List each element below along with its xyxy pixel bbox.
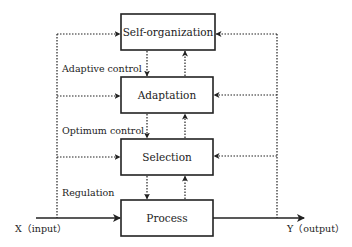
output-label: Y（output） — [286, 223, 345, 234]
box-process: Process — [121, 200, 213, 236]
box-label-adaptation: Adaptation — [137, 89, 197, 101]
box-self-organization: Self-organization — [121, 14, 215, 50]
box-selection: Selection — [121, 139, 213, 175]
box-label-self-organization: Self-organization — [123, 26, 214, 38]
inter-level-arrows — [147, 51, 185, 199]
box-label-selection: Selection — [142, 151, 192, 163]
box-adaptation: Adaptation — [121, 77, 213, 113]
label-adaptive-control: Adaptive control — [61, 63, 142, 74]
control-hierarchy-diagram: Self-organization Adaptation Selection P… — [0, 0, 352, 247]
right-feedback-bus — [214, 34, 277, 218]
input-label: X（input） — [15, 223, 67, 234]
label-regulation: Regulation — [62, 187, 114, 198]
label-optimum-control: Optimum control — [62, 125, 144, 136]
box-label-process: Process — [146, 212, 187, 224]
